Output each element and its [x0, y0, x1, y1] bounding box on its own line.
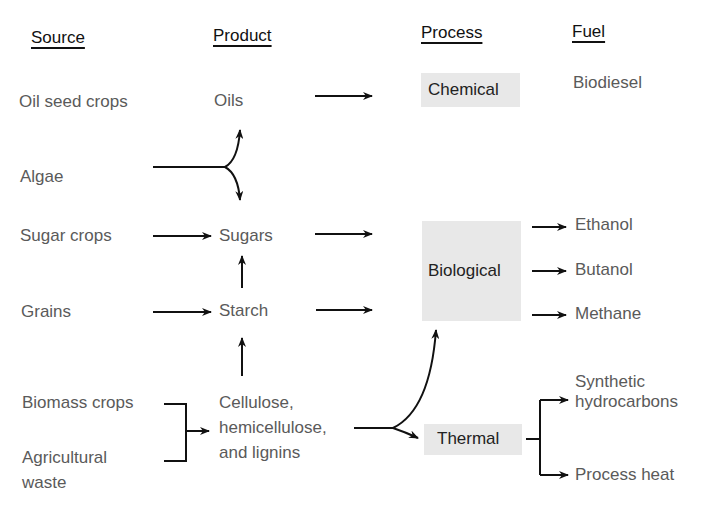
flow-arrows	[0, 0, 709, 514]
biofuel-pathway-diagram: Source Product Process Fuel Oil seed cro…	[0, 0, 709, 514]
